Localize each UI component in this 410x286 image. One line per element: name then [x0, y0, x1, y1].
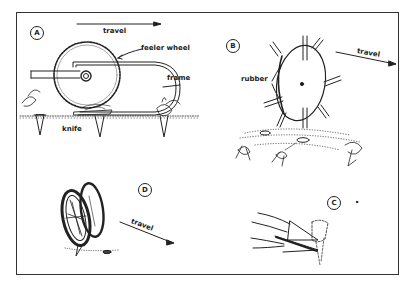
panel-b-marker: B: [226, 39, 240, 53]
feeler-wheel-icon: [54, 42, 120, 108]
feeler-wheel-label: feeler wheel: [141, 45, 190, 52]
panel-d-drawing: [57, 182, 174, 256]
rubber-label: rubber: [241, 76, 268, 83]
panel-c-marker: C: [327, 196, 341, 210]
panel-d-marker: D: [138, 183, 152, 197]
frame-label: frame: [167, 75, 190, 82]
panel-a-marker: A: [30, 26, 44, 40]
figure-canvas: A travel feeler wheel frame knife B rubb…: [0, 0, 410, 286]
panel-c-drawing: [251, 201, 358, 265]
panel-a-travel-label: travel: [103, 28, 126, 35]
line-drawings: [0, 0, 410, 286]
knife-label: knife: [62, 126, 82, 133]
